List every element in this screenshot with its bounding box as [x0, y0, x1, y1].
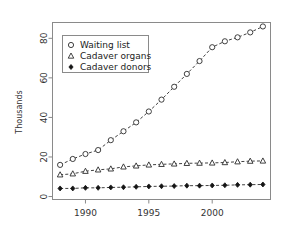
y-axis-title: Thousands: [15, 90, 24, 134]
x-tick-label: 1995: [137, 208, 160, 218]
x-tick-label: 1990: [74, 208, 97, 218]
data-point-marker-0-11: [197, 58, 202, 63]
data-point-marker-0-12: [210, 45, 215, 50]
data-point-marker-0-10: [184, 71, 189, 76]
data-point-marker-0-2: [83, 151, 88, 156]
data-point-marker-0-8: [159, 97, 164, 102]
data-point-marker-0-16: [260, 24, 265, 29]
legend-label-2: Cadaver donors: [80, 62, 152, 72]
legend-label-0: Waiting list: [80, 40, 130, 50]
y-tick-label: 80: [40, 32, 50, 44]
data-point-marker-0-1: [70, 156, 75, 161]
data-point-marker-legend-0: [68, 42, 73, 47]
data-point-marker-0-3: [96, 147, 101, 152]
transplant-trend-line-chart: 020406080 199019952000 Thousands Waiting…: [0, 0, 288, 237]
data-point-marker-0-6: [134, 120, 139, 125]
data-point-marker-0-13: [222, 39, 227, 44]
y-tick-label: 60: [40, 72, 50, 84]
data-point-marker-0-5: [121, 129, 126, 134]
chart-figure: 020406080 199019952000 Thousands Waiting…: [0, 0, 288, 237]
data-point-marker-0-7: [146, 109, 151, 114]
y-tick-label: 20: [40, 151, 50, 163]
chart-legend: Waiting listCadaver organsCadaver donors: [63, 36, 152, 73]
data-point-marker-0-4: [108, 138, 113, 143]
data-point-marker-0-14: [235, 35, 240, 40]
legend-label-1: Cadaver organs: [80, 51, 151, 61]
y-tick-label: 40: [40, 111, 50, 123]
data-point-marker-0-0: [58, 162, 63, 167]
x-tick-label: 2000: [201, 208, 224, 218]
data-point-marker-0-15: [248, 30, 253, 35]
data-point-marker-0-9: [172, 84, 177, 89]
y-tick-label: 0: [40, 193, 50, 199]
